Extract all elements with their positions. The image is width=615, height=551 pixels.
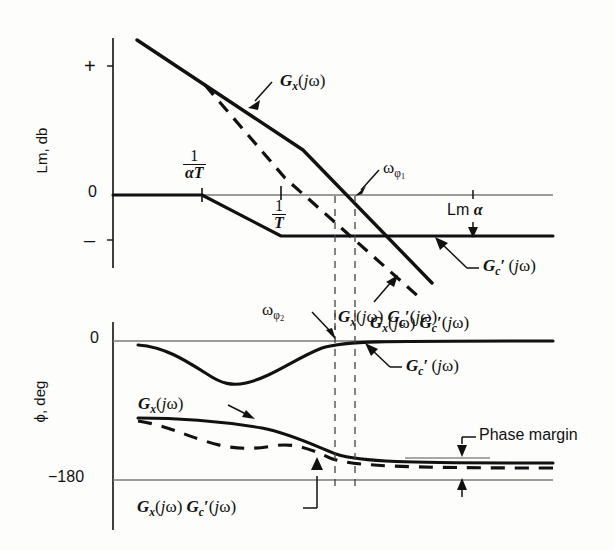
- label-omega-phi2: ωφ2: [262, 300, 284, 323]
- magnitude-axis-label: Lm, db: [33, 116, 50, 186]
- label-lm-alpha: Lm α: [447, 201, 483, 219]
- fraction-denominator: T: [272, 214, 286, 231]
- arrowhead-gx-lower: [242, 410, 255, 419]
- fraction-denominator: αT: [183, 164, 206, 181]
- curve-gc-phase: [138, 341, 553, 384]
- magnitude-ytick-label-plus: +: [84, 55, 96, 78]
- magnitude-panel: [107, 38, 553, 330]
- magnitude-xtick-label-1-over-alphaT: 1 αT: [183, 148, 206, 181]
- phase-ytick-label-minus180: −180: [48, 468, 84, 486]
- phase-axis-label: ϕ, deg: [31, 367, 48, 437]
- label-gx-upper: Gx(jω): [280, 71, 325, 93]
- leader-omega-phi2: [312, 312, 331, 332]
- label-gc-upper: Gc′ (jω): [483, 256, 536, 278]
- label-gx-lower: Gx(jω): [138, 394, 183, 416]
- label-gc-lower: Gc′ (jω): [406, 356, 459, 378]
- leader-gxgc-upper: [374, 281, 392, 302]
- curve-gxgc-magnitude: [205, 85, 420, 298]
- label-phase-margin: Phase margin: [479, 426, 578, 444]
- magnitude-ytick-label-minus: –: [84, 229, 95, 252]
- fraction-1-T: 1 T: [272, 198, 286, 231]
- phase-ytick-label-zero: 0: [90, 329, 99, 347]
- fraction-numerator: 1: [183, 148, 206, 164]
- magnitude-xtick-label-1-over-T: 1 T: [272, 198, 286, 231]
- fraction-numerator: 1: [272, 198, 286, 214]
- arrowhead-gxgc-lower: [311, 457, 323, 470]
- label-gxgc-phase-top: Gx(jω) Gc′(jω): [370, 313, 469, 335]
- magnitude-ytick-label-zero: 0: [88, 183, 97, 201]
- label-omega-phi1: ωφ1: [383, 158, 405, 181]
- fraction-1-alphaT: 1 αT: [183, 148, 206, 181]
- phase-margin-arrow-down: [457, 445, 467, 457]
- leader-gc-upper: [441, 243, 467, 268]
- leader-gx-upper: [255, 82, 272, 101]
- leader-omega-phi1: [361, 170, 379, 190]
- label-gxgc-lower: Gx(jω) Gc′(jω): [137, 497, 236, 519]
- arrowhead-gx-upper: [248, 100, 260, 110]
- curve-gc-magnitude: [113, 195, 553, 236]
- bode-plot-figure: Lm, db + 0 – 1 αT 1 T Gx(jω) ωφ1 Lm α Gc…: [0, 0, 615, 551]
